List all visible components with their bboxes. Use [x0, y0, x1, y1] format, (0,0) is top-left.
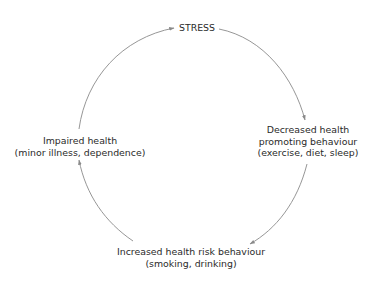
node-stress-label: STRESS — [160, 22, 234, 34]
node-increased-line-1: Increased health risk behaviour — [110, 246, 272, 258]
node-increased-line-2: (smoking, drinking) — [110, 258, 272, 270]
node-decreased-line-3: (exercise, diet, sleep) — [248, 147, 368, 159]
node-decreased-line-2: promoting behaviour — [248, 136, 368, 148]
node-impaired-line-2: (minor illness, dependence) — [14, 147, 146, 159]
node-impaired-line-1: Impaired health — [14, 135, 146, 147]
node-stress: STRESS — [160, 22, 234, 34]
node-decreased-health-promoting-behaviour: Decreased health promoting behaviour (ex… — [248, 124, 368, 159]
arrow-increased-to-impaired — [79, 160, 133, 241]
node-impaired-health: Impaired health (minor illness, dependen… — [14, 135, 146, 158]
node-decreased-line-1: Decreased health — [248, 124, 368, 136]
arrow-impaired-to-stress — [79, 28, 174, 129]
node-increased-health-risk-behaviour: Increased health risk behaviour (smoking… — [110, 246, 272, 269]
arrow-decreased-to-increased — [250, 164, 307, 244]
arrow-stress-to-decreased — [219, 29, 305, 120]
